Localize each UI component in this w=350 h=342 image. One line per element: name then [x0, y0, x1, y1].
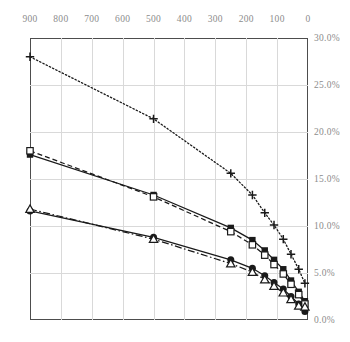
y-tick-label: 15.0% — [314, 174, 340, 184]
x-tick-label: 700 — [84, 14, 99, 24]
gridline-horizontal — [30, 132, 308, 133]
gridline-horizontal — [30, 273, 308, 274]
x-tick-label: 0 — [305, 14, 310, 24]
gridline-horizontal — [30, 85, 308, 86]
x-tick-label: 800 — [53, 14, 68, 24]
x-tick-label: 100 — [270, 14, 285, 24]
x-tick-label: 300 — [208, 14, 223, 24]
x-tick-label: 200 — [239, 14, 254, 24]
chart-container: 9008007006005004003002001000 0.0%5.0%10.… — [0, 0, 350, 342]
y-tick-label: 0.0% — [314, 315, 335, 325]
y-tick-label: 20.0% — [314, 127, 340, 137]
x-tick-label: 500 — [146, 14, 161, 24]
y-tick-label: 25.0% — [314, 80, 340, 90]
y-tick-label: 10.0% — [314, 221, 340, 231]
x-tick-label: 400 — [177, 14, 192, 24]
gridline-horizontal — [30, 179, 308, 180]
x-tick-label: 600 — [115, 14, 130, 24]
x-tick-label: 900 — [22, 14, 37, 24]
y-tick-label: 5.0% — [314, 268, 335, 278]
gridline-horizontal — [30, 226, 308, 227]
y-tick-label: 30.0% — [314, 33, 340, 43]
